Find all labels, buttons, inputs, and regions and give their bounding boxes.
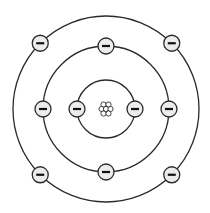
electron	[69, 101, 85, 117]
electron	[35, 101, 51, 117]
electron	[98, 38, 114, 54]
electron	[161, 101, 177, 117]
nucleus	[99, 102, 113, 116]
electron	[32, 35, 48, 51]
nucleon	[106, 111, 111, 116]
electron	[164, 167, 180, 183]
nucleon	[101, 111, 106, 116]
bohr-atom-diagram	[0, 0, 210, 213]
electron	[98, 164, 114, 180]
electron	[164, 35, 180, 51]
electron	[32, 167, 48, 183]
electron	[127, 101, 143, 117]
